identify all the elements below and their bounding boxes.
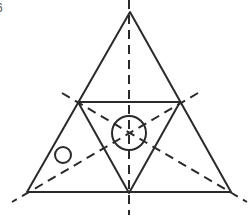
- small-circle: [55, 147, 71, 163]
- triangle-symmetry-diagram: [0, 0, 250, 221]
- right-symmetry-axis: [12, 93, 198, 202]
- left-symmetry-axis: [62, 93, 247, 202]
